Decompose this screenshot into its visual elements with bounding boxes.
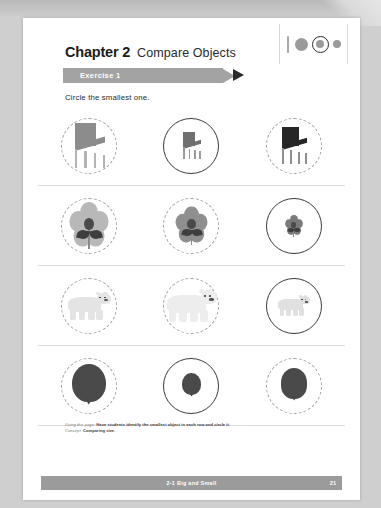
bear-small <box>278 293 310 318</box>
bear-snout <box>305 301 308 302</box>
object-cell[interactable] <box>251 107 337 185</box>
chair-leg <box>290 150 292 164</box>
flower-leaf <box>294 227 300 232</box>
object-cell[interactable] <box>148 347 234 425</box>
bear-eye <box>301 299 302 300</box>
bear-eye <box>204 295 206 297</box>
exercise-rows <box>38 106 345 426</box>
progression-dot-small-icon <box>333 40 341 48</box>
chair-leg <box>75 149 77 169</box>
flower-medium <box>175 206 207 244</box>
chair-leg <box>305 153 307 164</box>
chair-leg <box>199 151 200 159</box>
exercise-row-flowers <box>38 186 345 266</box>
chair-large <box>69 123 109 169</box>
progression-bar-icon <box>287 36 289 53</box>
flower-center <box>187 219 195 229</box>
chapter-subject: Compare Objects <box>137 46 236 60</box>
bear-snout <box>209 298 214 300</box>
worksheet-page: Chapter 2 Compare Objects Exercise 1 Cir… <box>23 18 360 500</box>
flower-large <box>69 202 109 250</box>
chair-medium <box>277 127 310 165</box>
exercise-banner-bar: Exercise 1 <box>63 68 223 83</box>
bear-large <box>165 286 217 326</box>
teacher-note-lead-2: Concept: <box>65 428 82 433</box>
flower-small <box>285 214 303 236</box>
bear-head <box>201 290 218 304</box>
teacher-note: Using this page: Have students identify … <box>65 422 315 435</box>
object-cell[interactable] <box>251 187 337 265</box>
teacher-note-lead-1: Using this page: <box>65 422 95 427</box>
chair-leg <box>103 155 105 169</box>
balloon-body <box>72 364 106 403</box>
progression-dot-large-icon <box>295 38 308 51</box>
chair-leg <box>282 148 284 164</box>
balloon-large <box>72 364 106 408</box>
chair-leg <box>194 150 195 159</box>
balloon-small <box>182 373 201 398</box>
balloon-body <box>182 373 201 395</box>
chair-leg <box>94 153 96 169</box>
exercise-row-chairs <box>38 106 345 186</box>
flower-center <box>291 222 296 228</box>
chapter-number: Chapter 2 <box>65 44 130 60</box>
object-cell[interactable] <box>46 187 132 265</box>
exercise-banner: Exercise 1 <box>63 68 247 83</box>
teacher-note-text-2: Comparing size. <box>83 428 115 433</box>
exercise-row-balloons <box>38 346 345 426</box>
object-cell[interactable] <box>148 187 234 265</box>
exercise-arrow-icon <box>233 69 244 81</box>
page-footer-bar: 2-1 Big and Small 21 <box>41 476 342 490</box>
object-cell[interactable] <box>251 347 337 425</box>
chair-leg <box>298 152 300 165</box>
object-cell[interactable] <box>148 107 234 185</box>
object-cell[interactable] <box>46 347 132 425</box>
chair-small <box>180 132 203 159</box>
page-title: Chapter 2 Compare Objects <box>65 44 236 60</box>
teacher-note-text-1: Have students identify the smallest obje… <box>96 422 230 427</box>
footer-lesson-title: 2-1 Big and Small <box>166 480 216 486</box>
bear-medium <box>67 289 111 323</box>
instruction-text: Circle the smallest one. <box>65 93 150 102</box>
scanned-page-backdrop: Chapter 2 Compare Objects Exercise 1 Cir… <box>0 0 381 508</box>
teacher-note-line-2: Concept: Comparing size. <box>65 428 315 434</box>
balloon-body <box>281 368 308 398</box>
bear-head <box>97 293 111 304</box>
progression-dot-selected-icon <box>312 36 329 53</box>
exercise-row-bears <box>38 266 345 346</box>
balloon-medium <box>281 368 308 402</box>
page-number: 21 <box>330 480 336 486</box>
size-progression-icon <box>279 24 348 64</box>
object-cell[interactable] <box>46 107 132 185</box>
object-cell[interactable] <box>251 267 337 345</box>
object-cell[interactable] <box>148 267 234 345</box>
progression-dot-medium-icon <box>316 40 324 48</box>
exercise-label: Exercise 1 <box>80 71 121 80</box>
balloon-knot <box>190 394 193 397</box>
chair-leg <box>183 147 184 158</box>
chair-leg <box>189 149 190 159</box>
object-cell[interactable] <box>46 267 132 345</box>
chair-leg <box>84 151 86 168</box>
